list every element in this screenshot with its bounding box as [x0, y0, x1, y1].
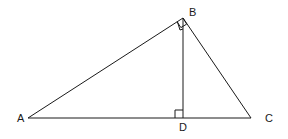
right-angle-mark-d	[175, 110, 183, 118]
vertex-label-a: A	[17, 112, 25, 124]
segment-bc	[183, 18, 251, 118]
vertex-label-b: B	[189, 6, 196, 18]
triangle-diagram: A B C D	[0, 0, 288, 139]
vertex-label-c: C	[265, 112, 273, 124]
segment-ab	[28, 18, 183, 118]
vertex-label-d: D	[179, 121, 187, 133]
